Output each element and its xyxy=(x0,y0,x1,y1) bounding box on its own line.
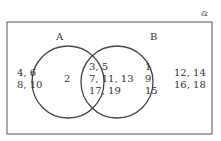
outside-right-line-2: 16, 18 xyxy=(174,80,206,90)
set-a-label: A xyxy=(56,32,63,42)
b-only-line-1: 1 xyxy=(145,62,151,72)
b-only-line-3: 15 xyxy=(145,86,158,96)
universal-set-symbol: & xyxy=(201,9,208,19)
outside-left-line-1: 4, 6 xyxy=(17,68,36,78)
a-only-value: 2 xyxy=(64,74,70,84)
outside-left-line-2: 8, 10 xyxy=(17,80,42,90)
intersection-line-3: 17, 19 xyxy=(89,86,121,96)
b-only-line-2: 9 xyxy=(145,74,151,84)
intersection-line-2: 7, 11, 13 xyxy=(89,74,134,84)
intersection-line-1: 3, 5 xyxy=(89,62,108,72)
set-b-label: B xyxy=(150,32,157,42)
outside-right-line-1: 12, 14 xyxy=(174,68,206,78)
